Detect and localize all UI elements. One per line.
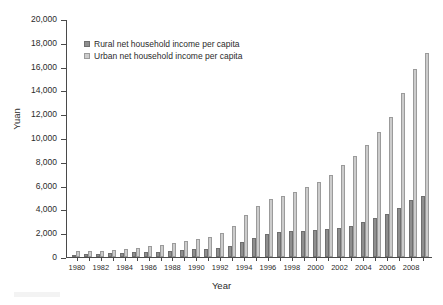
bar-urban: [353, 156, 357, 257]
y-axis-tick-label: 8,000: [36, 157, 57, 168]
y-axis-tick: 18,000: [0, 44, 66, 45]
x-axis-tick-label: 1982: [92, 263, 109, 273]
bar-urban: [220, 233, 224, 257]
bar-urban: [389, 117, 393, 257]
bar-urban: [365, 145, 369, 257]
legend-label-rural: Rural net household income per capita: [94, 39, 240, 49]
bar-group: [72, 20, 80, 257]
x-axis-tick-label: 1986: [140, 263, 157, 273]
y-axis-tick: 20,000: [0, 20, 66, 21]
bar-group: [313, 20, 321, 257]
legend-item-urban: Urban net household income per capita: [84, 50, 242, 62]
y-axis-tick: 10,000: [0, 139, 66, 140]
y-axis-tick-label: 2,000: [36, 228, 57, 239]
bar-group: [277, 20, 285, 257]
bar-urban: [100, 251, 104, 257]
x-axis-tick-mark: [172, 258, 173, 261]
x-axis-tick-label: 1992: [212, 263, 229, 273]
bar-urban: [377, 132, 381, 257]
bar-urban: [196, 239, 200, 257]
bar-urban: [136, 248, 140, 257]
bar-urban: [413, 69, 417, 257]
x-axis-title: Year: [0, 280, 443, 291]
x-axis-tick-mark: [328, 258, 329, 261]
legend-swatch-urban-icon: [84, 53, 90, 59]
bar-urban: [293, 192, 297, 257]
y-axis-tick-label: 18,000: [31, 38, 57, 49]
x-axis-tick-mark: [363, 258, 364, 261]
y-axis-tick-label: 10,000: [31, 133, 57, 144]
bar-group: [325, 20, 333, 257]
x-axis-tick-mark: [316, 258, 317, 261]
x-axis-tick-label: 1984: [116, 263, 133, 273]
x-axis-tick-mark: [268, 258, 269, 261]
bar-urban: [329, 175, 333, 257]
bar-urban: [401, 93, 405, 257]
x-axis-tick-mark: [208, 258, 209, 261]
y-axis-tick-label: 12,000: [31, 109, 57, 120]
x-axis-tick-label: 1980: [69, 263, 86, 273]
x-axis-tick-label: 2002: [331, 263, 348, 273]
x-axis-tick-mark: [125, 258, 126, 261]
x-axis-tick-mark: [196, 258, 197, 261]
bar-urban: [244, 215, 248, 257]
x-axis-tick-mark: [351, 258, 352, 261]
bar-urban: [148, 246, 152, 257]
x-axis-tick-label: 1990: [188, 263, 205, 273]
bar-urban: [232, 226, 236, 257]
bar-group: [265, 20, 273, 257]
x-axis-tick-mark: [304, 258, 305, 261]
x-axis-tick-label: 1988: [164, 263, 181, 273]
bar-group: [301, 20, 309, 257]
y-axis-tick: 4,000: [0, 210, 66, 211]
bar-group: [409, 20, 417, 257]
x-axis-tick-mark: [411, 258, 412, 261]
y-axis-tick: 8,000: [0, 163, 66, 164]
x-axis-tick-label: 2004: [355, 263, 372, 273]
x-axis-tick-mark: [256, 258, 257, 261]
y-axis-tick: 16,000: [0, 68, 66, 69]
x-axis-tick-mark: [161, 258, 162, 261]
y-axis-tick-label: 0: [52, 252, 57, 263]
x-axis-tick-label: 1996: [260, 263, 277, 273]
legend-swatch-rural-icon: [84, 41, 90, 47]
bar-group: [349, 20, 357, 257]
bar-urban: [305, 187, 309, 257]
x-axis-tick-mark: [184, 258, 185, 261]
bar-urban: [88, 251, 92, 257]
x-axis-tick-label: 2008: [403, 263, 420, 273]
x-axis-tick-mark: [280, 258, 281, 261]
bar-urban: [76, 251, 80, 257]
bar-group: [373, 20, 381, 257]
y-axis-tick-label: 14,000: [31, 85, 57, 96]
x-axis-tick-mark: [340, 258, 341, 261]
bar-urban: [281, 196, 285, 257]
x-axis-tick-mark: [149, 258, 150, 261]
y-axis-tick: 6,000: [0, 187, 66, 188]
x-axis-tick-mark: [232, 258, 233, 261]
chart-legend: Rural net household income per capita Ur…: [84, 38, 242, 62]
legend-label-urban: Urban net household income per capita: [94, 51, 242, 61]
y-axis-tick-label: 4,000: [36, 204, 57, 215]
y-axis-tick: 12,000: [0, 115, 66, 116]
bar-urban: [341, 165, 345, 257]
bar-group: [397, 20, 405, 257]
x-axis-tick-mark: [89, 258, 90, 261]
bar-group: [337, 20, 345, 257]
x-axis-tick-label: 2006: [379, 263, 396, 273]
x-axis-tick-mark: [137, 258, 138, 261]
bar-group: [289, 20, 297, 257]
bar-urban: [269, 199, 273, 257]
bar-urban: [124, 249, 128, 257]
x-axis-tick-mark: [387, 258, 388, 261]
bar-urban: [256, 206, 260, 257]
bar-urban: [317, 182, 321, 257]
x-axis-tick-mark: [399, 258, 400, 261]
y-axis-tick-label: 16,000: [31, 62, 57, 73]
y-axis-tick-label: 20,000: [31, 14, 57, 25]
bar-urban: [112, 250, 116, 257]
y-axis-tick: 0: [0, 258, 66, 259]
x-axis-labels: 1980198219841986198819901992199419961998…: [66, 263, 432, 275]
y-axis-ticks: 02,0004,0006,0008,00010,00012,00014,0001…: [0, 20, 66, 258]
bar-urban: [425, 53, 429, 257]
